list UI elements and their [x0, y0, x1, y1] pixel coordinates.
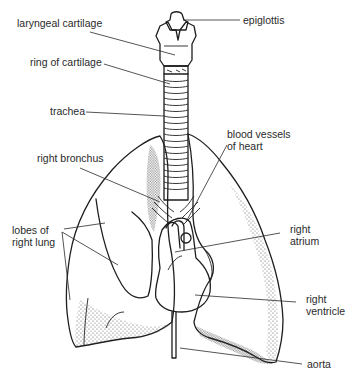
- label-right-bronchus: right bronchus: [37, 152, 104, 164]
- label-lobes-of-right-lung: lobes of right lung: [12, 224, 55, 248]
- label-right-atrium: right atrium: [290, 223, 319, 247]
- right-lung: [66, 136, 174, 347]
- label-trachea: trachea: [50, 105, 85, 117]
- label-right-ventricle: right ventricle: [306, 293, 345, 317]
- label-aorta: aorta: [307, 358, 331, 370]
- label-blood-vessels-of-heart: blood vessels of heart: [227, 128, 291, 152]
- pulmonary-vessel-section: [181, 233, 191, 243]
- left-lung: [188, 134, 283, 364]
- laryngeal-cartilage-shape: [156, 22, 196, 66]
- heart-outline: [155, 218, 210, 312]
- label-laryngeal-cartilage: laryngeal cartilage: [17, 17, 102, 29]
- label-ring-of-cartilage: ring of cartilage: [30, 56, 102, 68]
- right-lung-middle-lobe: [96, 199, 152, 298]
- label-epiglottis: epiglottis: [243, 14, 284, 26]
- descending-aorta: [172, 312, 176, 358]
